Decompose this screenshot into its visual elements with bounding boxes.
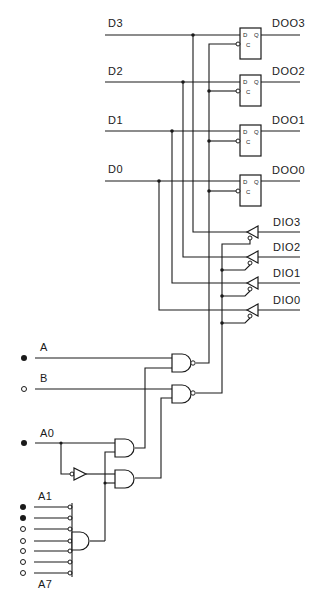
svg-text:C: C [246, 139, 251, 145]
svg-text:Q: Q [254, 179, 259, 185]
label-a1: A1 [38, 490, 52, 502]
label-d2: D2 [108, 65, 123, 77]
label-d0: D0 [108, 163, 123, 175]
label-dio1: DIO1 [273, 267, 301, 279]
not-gate-a0 [70, 468, 115, 480]
svg-text:D: D [243, 179, 248, 185]
label-doo3: DOO3 [272, 17, 305, 29]
label-doo0: DOO0 [272, 164, 305, 176]
latch-0: DQ C [236, 175, 300, 206]
clock-line [196, 44, 236, 363]
svg-text:D: D [243, 129, 248, 135]
label-d3: D3 [108, 17, 123, 29]
label-a: A [40, 341, 48, 353]
label-dio0: DIO0 [273, 294, 301, 306]
latch-1: DQ C [236, 125, 300, 156]
svg-text:Q: Q [254, 129, 259, 135]
label-b: B [40, 372, 48, 384]
and-gate-1 [115, 439, 134, 457]
svg-text:Q: Q [254, 79, 259, 85]
decode-line [90, 452, 115, 541]
input-a [21, 355, 172, 361]
label-dio3: DIO3 [273, 216, 301, 228]
bus-taps [157, 33, 247, 310]
label-a0: A0 [40, 427, 54, 439]
input-a0 [21, 440, 115, 474]
latch-3: DQ C [236, 28, 300, 59]
enable-line [196, 240, 250, 393]
svg-text:C: C [246, 189, 251, 195]
svg-text:D: D [243, 32, 248, 38]
svg-text:C: C [246, 89, 251, 95]
label-doo2: DOO2 [272, 65, 305, 77]
label-a7: A7 [38, 578, 52, 590]
svg-text:C: C [246, 42, 251, 48]
logic-schematic: D3 D2 D1 D0 DQ C DQ C DQ C [0, 0, 319, 606]
label-doo1: DOO1 [272, 114, 305, 126]
address-decode-and-gate [72, 532, 89, 550]
and-gate-2 [115, 470, 134, 488]
nand-gate-b [135, 385, 195, 478]
input-b [22, 387, 173, 392]
svg-text:Q: Q [254, 32, 259, 38]
label-d1: D1 [108, 114, 123, 126]
address-inputs [20, 503, 72, 577]
label-dio2: DIO2 [273, 241, 301, 253]
svg-text:D: D [243, 79, 248, 85]
latch-2: DQ C [236, 75, 300, 106]
